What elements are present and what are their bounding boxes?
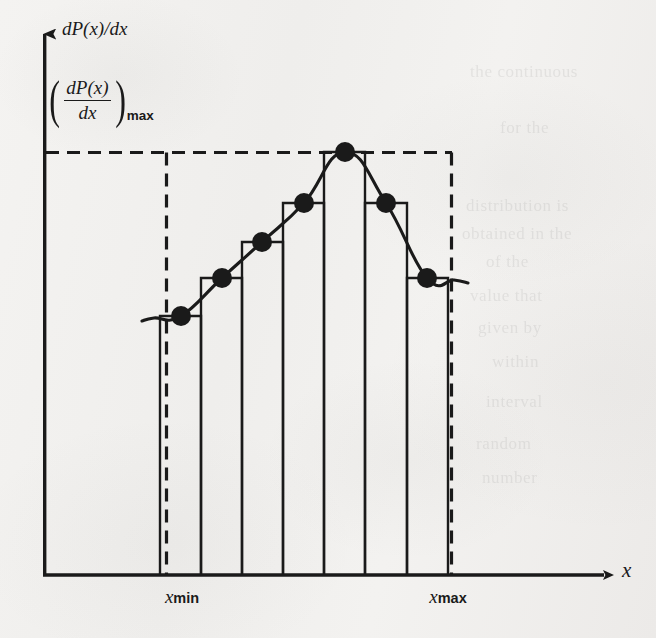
x-axis-label: x [622, 558, 631, 583]
x-tick-label: xmax [429, 586, 466, 608]
open-paren: ( [49, 74, 60, 126]
max-reference-lines [46, 153, 452, 576]
data-point-marker [376, 193, 396, 213]
close-paren: ) [115, 74, 126, 126]
histogram-bar [242, 242, 283, 575]
data-point-marker [335, 142, 355, 162]
figure-container: the continuousfor thedistribution isobta… [0, 0, 656, 638]
histogram-bar [407, 278, 448, 575]
data-point-marker [294, 193, 314, 213]
fraction-denominator: dx [64, 100, 110, 123]
max-value-annotation: ( dP(x) dx ) max [46, 74, 154, 126]
max-fraction: dP(x) dx [63, 77, 111, 123]
max-subscript: max [127, 108, 154, 126]
density-curve [142, 152, 468, 321]
tick-label-subscript: min [173, 590, 199, 606]
histogram-bar [324, 152, 365, 575]
fraction-numerator: dP(x) [64, 77, 110, 99]
x-tick-label: xmin [165, 586, 199, 608]
tick-label-subscript: max [438, 590, 467, 606]
data-point-marker [212, 268, 232, 288]
curve-markers [171, 142, 437, 326]
data-point-marker [417, 268, 437, 288]
y-axis-label: dP(x)/dx [62, 18, 127, 40]
histogram-bars [160, 152, 448, 575]
histogram-bar [201, 278, 242, 575]
data-point-marker [171, 306, 191, 326]
histogram-bar [283, 203, 324, 575]
data-point-marker [252, 232, 272, 252]
histogram-bar [365, 203, 407, 575]
